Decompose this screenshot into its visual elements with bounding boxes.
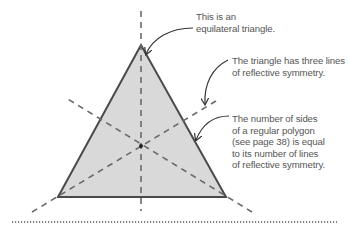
annotation-equilateral: This is an equilateral triangle.: [196, 11, 275, 34]
annotation-line: This is an: [196, 11, 275, 23]
annotation-line: to its number of lines: [232, 148, 325, 160]
annotation-line: of reflective symmetry.: [232, 67, 345, 79]
callout-arrow-three-lines: [205, 60, 228, 104]
annotation-line: of reflective symmetry.: [232, 159, 325, 171]
annotation-line: The number of sides: [232, 113, 325, 125]
annotation-line: of a regular polygon: [232, 125, 325, 137]
callout-arrow-equilateral: [146, 28, 193, 54]
annotation-regular-polygon: The number of sides of a regular polygon…: [232, 113, 325, 171]
annotation-line: equilateral triangle.: [196, 23, 275, 35]
annotation-line: The triangle has three lines: [232, 55, 345, 67]
callout-arrow-regular-polygon: [196, 116, 229, 140]
centroid-point: [139, 144, 143, 148]
annotation-line: (see page 38) is equal: [232, 136, 325, 148]
annotation-three-lines: The triangle has three lines of reflecti…: [232, 55, 345, 78]
equilateral-triangle: [58, 45, 226, 197]
